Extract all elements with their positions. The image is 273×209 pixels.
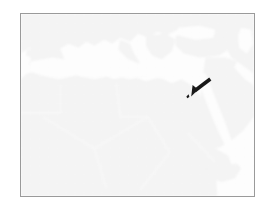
map-canvas — [21, 14, 254, 196]
map-figure — [20, 13, 255, 197]
screenshot-root: North Africa, Mediterranean and Arabian … — [0, 0, 273, 209]
marker-target-label: Eastern Mediterranean / Levant — [0, 0, 1, 1]
figure-caption — [0, 0, 1, 1]
map-haze — [21, 14, 254, 196]
map-region-label: North Africa, Mediterranean and Arabian … — [0, 0, 1, 1]
